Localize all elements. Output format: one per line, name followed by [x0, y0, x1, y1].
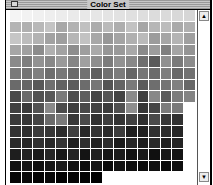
color-swatch[interactable]: [138, 91, 149, 102]
color-swatch[interactable]: [138, 68, 149, 79]
color-swatch[interactable]: [161, 114, 172, 125]
color-swatch[interactable]: [126, 68, 137, 79]
color-swatch[interactable]: [138, 45, 149, 56]
color-swatch[interactable]: [103, 91, 114, 102]
color-swatch[interactable]: [91, 126, 102, 137]
color-swatch[interactable]: [68, 149, 79, 160]
color-swatch[interactable]: [45, 114, 56, 125]
color-swatch[interactable]: [33, 138, 44, 149]
color-swatch[interactable]: [149, 33, 160, 44]
color-swatch[interactable]: [114, 91, 125, 102]
color-swatch[interactable]: [138, 22, 149, 33]
color-swatch[interactable]: [184, 68, 195, 79]
color-swatch[interactable]: [33, 33, 44, 44]
color-swatch[interactable]: [22, 80, 33, 91]
color-swatch[interactable]: [22, 10, 33, 21]
color-swatch[interactable]: [172, 114, 183, 125]
color-swatch[interactable]: [80, 10, 91, 21]
color-swatch[interactable]: [56, 10, 67, 21]
color-swatch[interactable]: [68, 33, 79, 44]
color-swatch[interactable]: [33, 80, 44, 91]
color-swatch[interactable]: [91, 138, 102, 149]
color-swatch[interactable]: [68, 91, 79, 102]
color-swatch[interactable]: [91, 68, 102, 79]
color-swatch[interactable]: [33, 126, 44, 137]
color-swatch[interactable]: [126, 161, 137, 172]
color-swatch[interactable]: [172, 126, 183, 137]
color-swatch[interactable]: [45, 172, 56, 183]
color-swatch[interactable]: [161, 80, 172, 91]
color-swatch[interactable]: [149, 80, 160, 91]
color-swatch[interactable]: [33, 68, 44, 79]
color-swatch[interactable]: [149, 10, 160, 21]
color-swatch[interactable]: [161, 126, 172, 137]
color-swatch[interactable]: [10, 22, 21, 33]
color-swatch[interactable]: [80, 91, 91, 102]
color-swatch[interactable]: [33, 149, 44, 160]
color-swatch[interactable]: [22, 172, 33, 183]
color-swatch[interactable]: [22, 33, 33, 44]
color-swatch[interactable]: [114, 138, 125, 149]
color-swatch[interactable]: [45, 80, 56, 91]
color-swatch[interactable]: [172, 91, 183, 102]
color-swatch[interactable]: [114, 80, 125, 91]
color-swatch[interactable]: [56, 80, 67, 91]
color-swatch[interactable]: [33, 45, 44, 56]
color-swatch[interactable]: [10, 126, 21, 137]
color-swatch[interactable]: [114, 68, 125, 79]
color-swatch[interactable]: [56, 114, 67, 125]
color-swatch[interactable]: [56, 126, 67, 137]
color-swatch[interactable]: [91, 56, 102, 67]
color-swatch[interactable]: [126, 33, 137, 44]
color-swatch[interactable]: [161, 22, 172, 33]
color-swatch[interactable]: [184, 33, 195, 44]
color-swatch[interactable]: [126, 149, 137, 160]
color-swatch[interactable]: [80, 172, 91, 183]
color-swatch[interactable]: [103, 45, 114, 56]
color-swatch[interactable]: [91, 172, 102, 183]
color-swatch[interactable]: [10, 10, 21, 21]
color-swatch[interactable]: [45, 56, 56, 67]
color-swatch[interactable]: [138, 103, 149, 114]
color-swatch[interactable]: [56, 91, 67, 102]
color-swatch[interactable]: [56, 149, 67, 160]
color-swatch[interactable]: [45, 45, 56, 56]
color-swatch[interactable]: [45, 22, 56, 33]
color-swatch[interactable]: [103, 10, 114, 21]
color-swatch[interactable]: [10, 91, 21, 102]
color-swatch[interactable]: [45, 91, 56, 102]
color-swatch[interactable]: [138, 138, 149, 149]
color-swatch[interactable]: [172, 45, 183, 56]
color-swatch[interactable]: [138, 161, 149, 172]
color-swatch[interactable]: [91, 10, 102, 21]
color-swatch[interactable]: [91, 91, 102, 102]
color-swatch[interactable]: [114, 114, 125, 125]
color-swatch[interactable]: [56, 172, 67, 183]
color-swatch[interactable]: [91, 22, 102, 33]
color-swatch[interactable]: [103, 126, 114, 137]
color-swatch[interactable]: [68, 80, 79, 91]
color-swatch[interactable]: [68, 103, 79, 114]
color-swatch[interactable]: [45, 10, 56, 21]
close-box-icon[interactable]: [11, 1, 18, 7]
color-swatch[interactable]: [33, 56, 44, 67]
color-swatch[interactable]: [172, 10, 183, 21]
color-swatch[interactable]: [184, 10, 195, 21]
color-swatch[interactable]: [22, 56, 33, 67]
color-swatch[interactable]: [91, 149, 102, 160]
color-swatch[interactable]: [103, 114, 114, 125]
color-swatch[interactable]: [184, 56, 195, 67]
color-swatch[interactable]: [10, 56, 21, 67]
color-swatch[interactable]: [138, 149, 149, 160]
color-swatch[interactable]: [80, 56, 91, 67]
color-swatch[interactable]: [80, 161, 91, 172]
color-swatch[interactable]: [149, 114, 160, 125]
color-swatch[interactable]: [45, 33, 56, 44]
color-swatch[interactable]: [33, 22, 44, 33]
color-swatch[interactable]: [45, 138, 56, 149]
color-swatch[interactable]: [172, 33, 183, 44]
color-swatch[interactable]: [172, 103, 183, 114]
color-swatch[interactable]: [22, 126, 33, 137]
color-swatch[interactable]: [80, 126, 91, 137]
color-swatch[interactable]: [184, 80, 195, 91]
